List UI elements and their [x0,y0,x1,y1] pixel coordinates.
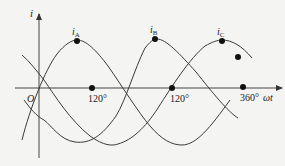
label-ia: iA [72,26,80,39]
axis-dot-120-a [89,85,95,91]
stray-dot [235,54,241,60]
tick-label-360: 360° [240,92,259,103]
waveform-diagram: i O iA iB iC 120° 120° 360° ωt [0,0,285,166]
x-axis-label: ωt [263,92,273,103]
axis-dot-360 [240,84,246,90]
curve-ic [22,40,252,145]
axis-dot-120-b [169,85,175,91]
label-ic: iC [217,26,225,39]
origin-label: O [27,93,34,104]
tick-label-120-a: 120° [88,93,107,104]
tick-label-120-b: 120° [170,93,189,104]
label-ib: iB [150,24,158,37]
y-axis-label: i [30,7,33,19]
